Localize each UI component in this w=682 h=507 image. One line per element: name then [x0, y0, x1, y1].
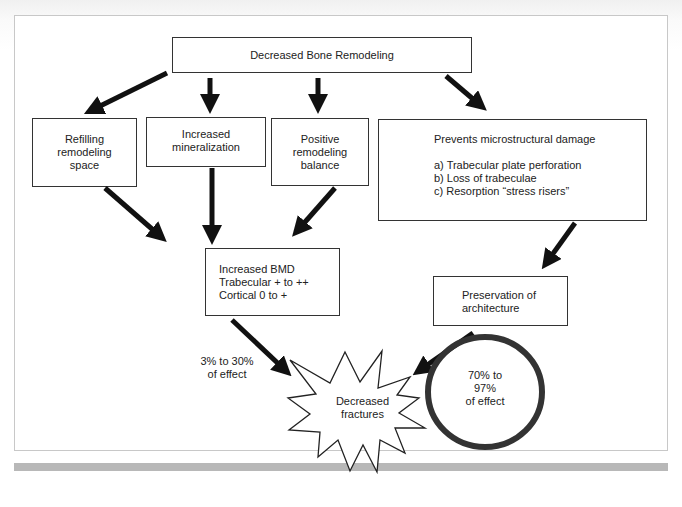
- architecture-line-1: Preservation of: [462, 289, 567, 302]
- mineralization-line-1: Increased: [147, 128, 265, 141]
- diagram-frame: [14, 15, 668, 451]
- effect-right-line-1: 70% to: [450, 369, 520, 382]
- decreased-bone-remodeling-label: Decreased Bone Remodeling: [250, 49, 394, 62]
- decreased-bone-remodeling-box: Decreased Bone Remodeling: [172, 37, 472, 73]
- effect-left-line-2: of effect: [192, 368, 262, 381]
- preservation-of-architecture-box: Preservation of architecture: [433, 276, 568, 326]
- bmd-line-3: Cortical 0 to +: [219, 289, 339, 302]
- positive-line-2: remodeling: [293, 146, 347, 159]
- refilling-line-1: Refilling: [65, 133, 104, 146]
- prevents-item-c: c) Resorption “stress risers”: [434, 185, 646, 198]
- effect-left-line-1: 3% to 30%: [192, 355, 262, 368]
- positive-line-3: balance: [301, 159, 340, 172]
- increased-mineralization-box: Increased mineralization: [146, 117, 266, 167]
- mineralization-line-2: mineralization: [147, 141, 265, 154]
- positive-line-1: Positive: [301, 133, 340, 146]
- positive-remodeling-balance-box: Positive remodeling balance: [271, 118, 369, 186]
- bottom-bar: [14, 463, 668, 471]
- fractures-line-2: fractures: [315, 408, 410, 421]
- prevents-item-a: a) Trabecular plate perforation: [434, 159, 646, 172]
- bmd-line-2: Trabecular + to ++: [219, 276, 339, 289]
- architecture-line-2: architecture: [462, 302, 567, 315]
- fractures-line-1: Decreased: [315, 395, 410, 408]
- effect-left-label: 3% to 30% of effect: [192, 355, 262, 381]
- prevents-title: Prevents microstructural damage: [434, 133, 646, 146]
- prevents-item-b: b) Loss of trabeculae: [434, 172, 646, 185]
- refilling-line-2: remodeling: [57, 146, 111, 159]
- bmd-line-1: Increased BMD: [219, 263, 339, 276]
- spacer: [434, 146, 646, 159]
- increased-bmd-box: Increased BMD Trabecular + to ++ Cortica…: [205, 248, 340, 316]
- effect-right-label: 70% to 97% of effect: [450, 369, 520, 408]
- decreased-fractures-label: Decreased fractures: [315, 395, 410, 421]
- prevents-microstructural-damage-box: Prevents microstructural damage a) Trabe…: [378, 119, 647, 221]
- refilling-line-3: space: [70, 159, 99, 172]
- refilling-remodeling-space-box: Refilling remodeling space: [32, 118, 137, 187]
- effect-right-line-3: of effect: [450, 395, 520, 408]
- effect-right-line-2: 97%: [450, 382, 520, 395]
